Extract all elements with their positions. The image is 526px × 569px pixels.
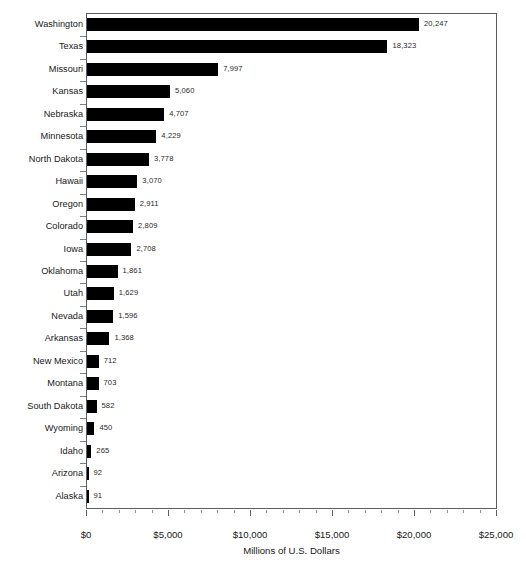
bar-row: 1,596 — [87, 306, 497, 327]
x-axis-minor-tick — [463, 510, 464, 513]
bar — [87, 355, 99, 368]
x-axis-minor-tick — [381, 510, 382, 513]
bar — [87, 175, 137, 188]
x-axis-minor-tick — [119, 510, 120, 513]
bar-row: 5,060 — [87, 81, 497, 102]
bar-row: 3,778 — [87, 149, 497, 170]
category-label: Colorado — [0, 216, 83, 237]
category-label: Texas — [0, 36, 83, 57]
y-axis-tick — [80, 239, 86, 240]
y-axis-tick — [80, 126, 86, 127]
bar — [87, 63, 218, 76]
bar-row: 265 — [87, 441, 497, 462]
x-axis-minor-tick — [283, 510, 284, 513]
y-axis-tick — [80, 149, 86, 150]
bar-value-label: 92 — [94, 466, 103, 479]
bar — [87, 18, 419, 31]
x-axis-minor-tick — [430, 510, 431, 513]
y-axis-tick — [80, 373, 86, 374]
x-axis-minor-tick — [201, 510, 202, 513]
y-axis-tick — [80, 81, 86, 82]
bar — [87, 265, 118, 278]
bar-value-label: 3,070 — [142, 174, 162, 187]
y-axis-tick — [80, 104, 86, 105]
bar-row: 4,229 — [87, 126, 497, 147]
bar-value-label: 7,997 — [223, 62, 243, 75]
category-label: Washington — [0, 14, 83, 35]
y-axis-tick — [80, 351, 86, 352]
bar-row: 2,809 — [87, 216, 497, 237]
bar-row: 712 — [87, 351, 497, 372]
y-axis-tick — [80, 463, 86, 464]
bar — [87, 287, 114, 300]
x-axis-minor-tick — [480, 510, 481, 513]
category-label: Arizona — [0, 463, 83, 484]
bar — [87, 108, 164, 121]
category-label: North Dakota — [0, 149, 83, 170]
bar-value-label: 5,060 — [175, 84, 195, 97]
bar-value-label: 1,368 — [114, 331, 134, 344]
bar-value-label: 2,911 — [140, 197, 159, 210]
bar-row: 450 — [87, 418, 497, 439]
x-axis-minor-tick — [217, 510, 218, 513]
y-axis-tick — [80, 171, 86, 172]
x-axis-minor-tick — [152, 510, 153, 513]
bar-row: 582 — [87, 396, 497, 417]
x-axis-tick-label: $5,000 — [153, 529, 182, 540]
category-label: Wyoming — [0, 418, 83, 439]
bar-row: 3,070 — [87, 171, 497, 192]
x-axis-minor-tick — [316, 510, 317, 513]
category-label: Arkansas — [0, 328, 83, 349]
bar — [87, 220, 133, 233]
bar-value-label: 1,596 — [118, 309, 138, 322]
bar — [87, 153, 149, 166]
x-axis-tick-label: $0 — [81, 529, 92, 540]
x-axis-minor-tick — [348, 510, 349, 513]
bar-value-label: 91 — [94, 489, 103, 502]
bars-layer: 20,24718,3237,9975,0604,7074,2293,7783,0… — [87, 14, 497, 508]
bar — [87, 243, 131, 256]
y-axis-tick — [80, 396, 86, 397]
bar — [87, 198, 135, 211]
y-axis-tick — [80, 261, 86, 262]
y-axis-tick — [80, 441, 86, 442]
bar — [87, 310, 113, 323]
x-axis-minor-tick — [447, 510, 448, 513]
category-label: Oklahoma — [0, 261, 83, 282]
bar — [87, 467, 89, 480]
bar-row: 4,707 — [87, 104, 497, 125]
x-axis-major-tick — [86, 510, 87, 516]
y-axis-tick — [80, 283, 86, 284]
bar-value-label: 4,229 — [161, 129, 181, 142]
x-axis-tick-label: $25,000 — [479, 529, 514, 540]
x-axis-major-tick — [496, 510, 497, 516]
category-label: Minnesota — [0, 126, 83, 147]
bar-value-label: 450 — [99, 421, 112, 434]
category-label: Kansas — [0, 81, 83, 102]
category-label: Nevada — [0, 306, 83, 327]
x-axis-minor-tick — [365, 510, 366, 513]
category-label: South Dakota — [0, 396, 83, 417]
bar-value-label: 2,809 — [138, 219, 158, 232]
bar-row: 20,247 — [87, 14, 497, 35]
bar-row: 7,997 — [87, 59, 497, 80]
bar-value-label: 703 — [104, 376, 117, 389]
bar-value-label: 4,707 — [169, 107, 189, 120]
y-axis-tick — [80, 418, 86, 419]
x-axis-minor-tick — [184, 510, 185, 513]
category-label: Iowa — [0, 239, 83, 260]
x-axis-title: Millions of U.S. Dollars — [86, 545, 497, 556]
bar — [87, 85, 170, 98]
category-label: Nebraska — [0, 104, 83, 125]
category-label: Utah — [0, 283, 83, 304]
category-label: Alaska — [0, 486, 83, 507]
bar — [87, 332, 109, 345]
bar-row: 18,323 — [87, 36, 497, 57]
bar-row: 1,629 — [87, 283, 497, 304]
bar-value-label: 712 — [104, 354, 117, 367]
y-axis-tick — [80, 59, 86, 60]
category-label: Oregon — [0, 194, 83, 215]
bar — [87, 40, 387, 53]
y-axis-tick — [80, 36, 86, 37]
x-axis-minor-tick — [135, 510, 136, 513]
